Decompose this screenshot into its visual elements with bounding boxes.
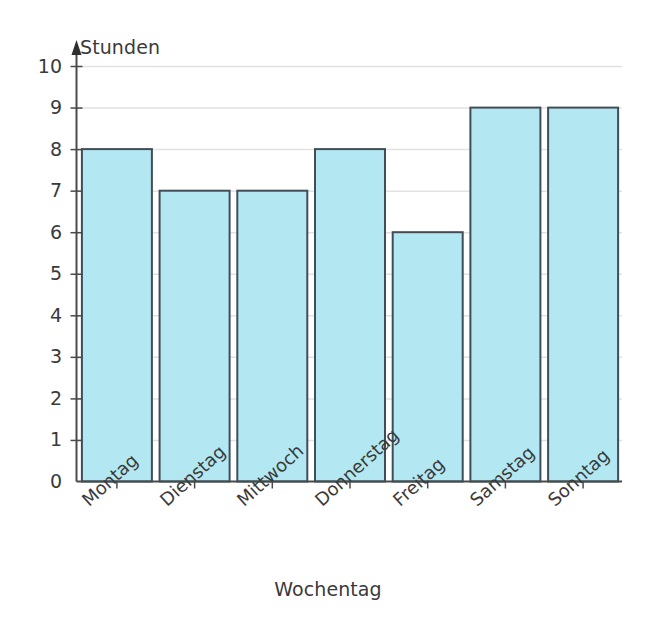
- bar-chart: Stunden Wochentag 012345678910 MontagDie…: [0, 0, 656, 625]
- bar: [548, 108, 618, 482]
- y-tick-label: 1: [28, 430, 62, 449]
- bar: [315, 149, 385, 481]
- y-tick-label: 7: [28, 181, 62, 200]
- y-tick-label: 3: [28, 347, 62, 366]
- bar: [393, 232, 463, 481]
- y-tick-label: 10: [28, 57, 62, 76]
- bar: [160, 191, 230, 482]
- y-tick-label: 2: [28, 389, 62, 408]
- bar-series: [82, 108, 618, 482]
- y-tick-label: 8: [28, 140, 62, 159]
- y-tick-label: 6: [28, 223, 62, 242]
- y-tick-label: 0: [28, 472, 62, 491]
- y-tick-label: 4: [28, 306, 62, 325]
- bar: [237, 191, 307, 482]
- x-axis-title: Wochentag: [0, 578, 656, 600]
- bar: [470, 108, 540, 482]
- y-tick-label: 5: [28, 264, 62, 283]
- y-tick-label: 9: [28, 98, 62, 117]
- bar: [82, 149, 152, 481]
- chart-canvas: [0, 0, 656, 625]
- y-axis-title: Stunden: [80, 36, 160, 58]
